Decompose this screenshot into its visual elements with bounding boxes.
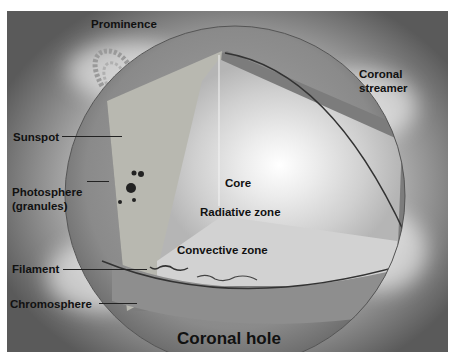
label-photosphere: Photosphere (granules)	[12, 185, 82, 213]
label-sunspot: Sunspot	[13, 130, 59, 144]
leader-line-photosphere	[87, 181, 109, 182]
sun-diagram-image: Prominence Coronal streamer Sunspot Phot…	[7, 11, 448, 352]
leader-line-filament	[63, 269, 147, 270]
label-photosphere-line2: (granules)	[12, 199, 82, 213]
label-chromosphere: Chromosphere	[10, 297, 92, 311]
label-photosphere-line1: Photosphere	[12, 185, 82, 199]
label-prominence: Prominence	[91, 17, 157, 31]
label-core: Core	[225, 176, 251, 190]
label-filament: Filament	[12, 262, 59, 276]
label-coronal-hole: Coronal hole	[177, 329, 281, 349]
leader-line-chromosphere	[99, 303, 137, 304]
label-radiative-zone: Radiative zone	[200, 205, 281, 219]
label-coronal-streamer: Coronal streamer	[359, 67, 408, 95]
label-coronal-streamer-line2: streamer	[359, 81, 408, 95]
leader-line-sunspot	[62, 136, 122, 137]
label-coronal-streamer-line1: Coronal	[359, 67, 408, 81]
label-convective-zone: Convective zone	[177, 243, 268, 257]
